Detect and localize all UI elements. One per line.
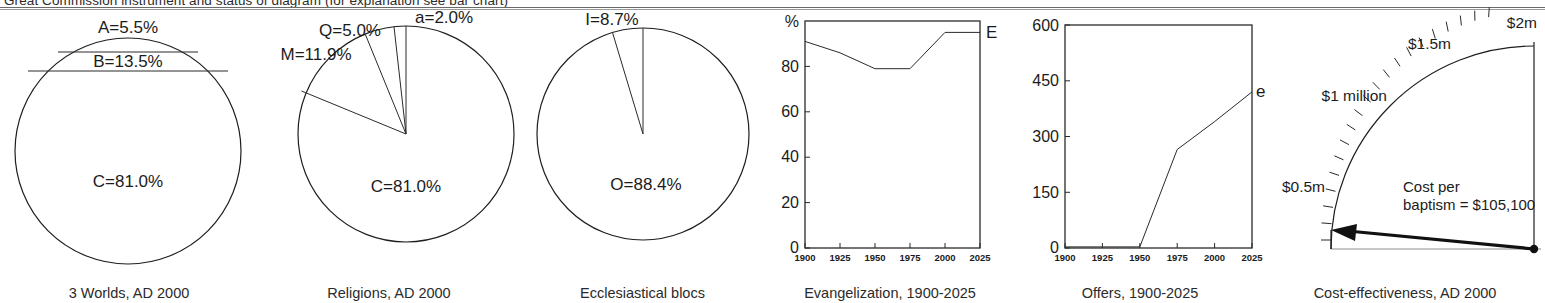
y-axis-unit-label: % <box>785 13 799 30</box>
panel-religions: a=2.0% Q=5.0% M=11.9% C=81.0% Religions,… <box>258 12 520 303</box>
label-slice-c: C=81.0% <box>93 172 163 191</box>
gauge-label-one-million: $1 million <box>1322 87 1387 104</box>
three-worlds-labels: A=5.5% B=13.5% C=81.0% <box>0 12 258 280</box>
x-tick-label-1925: 1925 <box>1092 252 1114 263</box>
label-slice-b: B=13.5% <box>93 52 162 71</box>
panel-evangelization: % 0 20 40 60 80 1900 1925 1950 1975 2000… <box>765 12 1015 303</box>
gauge-label-half-million: $0.5m <box>1282 178 1325 195</box>
label-slice-q: Q=5.0% <box>319 21 381 40</box>
x-tick-label-1975: 1975 <box>1167 252 1189 263</box>
religions-labels: a=2.0% Q=5.0% M=11.9% C=81.0% <box>258 12 520 280</box>
panel-caption-cost-effectiveness: Cost-effectiveness, AD 2000 <box>1265 285 1545 301</box>
x-tick-label-2000: 2000 <box>934 252 955 263</box>
panel-caption-religions: Religions, AD 2000 <box>258 285 520 301</box>
y-tick-label-60: 60 <box>781 103 799 120</box>
title-rule-top <box>0 7 1545 8</box>
evangelization-labels: % 0 20 40 60 80 1900 1925 1950 1975 2000… <box>765 12 1015 280</box>
label-slice-a: A=5.5% <box>98 18 158 37</box>
y-tick-label-600: 600 <box>1032 17 1059 34</box>
title-rule-bottom <box>0 9 1545 10</box>
y-tick-label-300: 300 <box>1032 128 1059 145</box>
x-tick-label-1975: 1975 <box>899 252 921 263</box>
label-slice-m: M=11.9% <box>280 45 351 64</box>
offers-labels: 0 150 300 450 600 1900 1925 1950 1975 20… <box>1015 12 1265 280</box>
x-tick-label-1900: 1900 <box>1054 252 1075 263</box>
y-tick-label-40: 40 <box>781 148 799 165</box>
gauge-label-one-and-half-million: $1.5m <box>1408 35 1451 52</box>
panel-caption-ecclesiastical-blocs: Ecclesiastical blocs <box>520 285 765 301</box>
panel-caption-three-worlds: 3 Worlds, AD 2000 <box>0 285 258 301</box>
label-slice-o: O=88.4% <box>610 175 681 194</box>
y-tick-label-80: 80 <box>781 58 799 75</box>
x-tick-label-1950: 1950 <box>864 252 885 263</box>
x-tick-label-2025: 2025 <box>969 252 991 263</box>
panel-caption-offers: Offers, 1900-2025 <box>1015 285 1265 301</box>
y-tick-label-450: 450 <box>1032 72 1059 89</box>
series-end-label-E: E <box>986 23 997 42</box>
ecclesiastical-labels: I=8.7% O=88.4% <box>520 12 765 280</box>
x-tick-label-1900: 1900 <box>794 252 815 263</box>
panel-caption-evangelization: Evangelization, 1900-2025 <box>765 285 1015 301</box>
x-tick-label-1925: 1925 <box>829 252 851 263</box>
panel-three-worlds: A=5.5% B=13.5% C=81.0% 3 Worlds, AD 2000 <box>0 12 258 303</box>
label-slice-a: a=2.0% <box>415 8 473 27</box>
y-tick-label-150: 150 <box>1032 184 1059 201</box>
label-slice-i: I=8.7% <box>585 10 638 29</box>
gauge-label-two-million: $2m <box>1507 14 1537 31</box>
figure-root: Great Commission instrument and status o… <box>0 0 1545 303</box>
panel-ecclesiastical-blocs: I=8.7% O=88.4% Ecclesiastical blocs <box>520 12 765 303</box>
x-tick-label-2000: 2000 <box>1204 252 1225 263</box>
cost-effectiveness-labels: $0.5m $1 million $1.5m $2m Cost per bapt… <box>1265 12 1545 280</box>
panel-cost-effectiveness: $0.5m $1 million $1.5m $2m Cost per bapt… <box>1265 12 1545 303</box>
gauge-note-line1: Cost per <box>1403 178 1460 195</box>
label-slice-c: C=81.0% <box>371 177 441 196</box>
y-tick-label-20: 20 <box>781 194 799 211</box>
gauge-note-line2: baptism = $105,100 <box>1403 196 1535 213</box>
x-tick-label-2025: 2025 <box>1241 252 1263 263</box>
x-tick-label-1950: 1950 <box>1129 252 1150 263</box>
panel-offers: 0 150 300 450 600 1900 1925 1950 1975 20… <box>1015 12 1265 303</box>
